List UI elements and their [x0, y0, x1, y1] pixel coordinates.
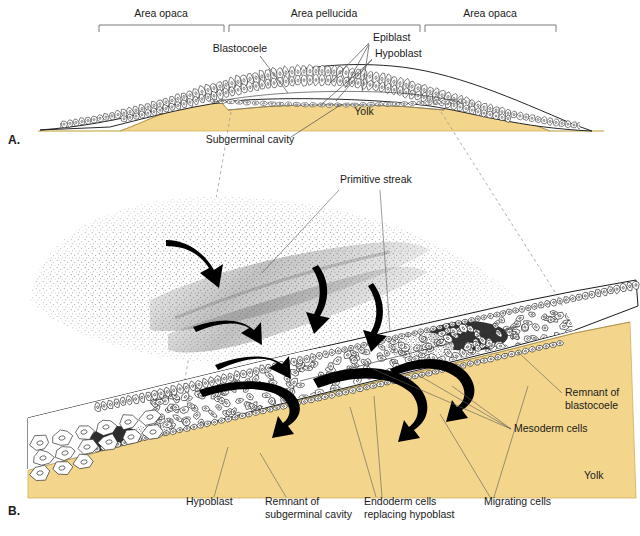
- cell: [417, 101, 424, 105]
- label-remnant-blastocoele-l1: Remnant of: [565, 386, 619, 398]
- cell: [90, 115, 98, 123]
- label-area-opaca-left: Area opaca: [134, 7, 188, 19]
- label-remnant-subgerminal-l1: Remnant of: [265, 495, 319, 507]
- cell: [37, 124, 43, 130]
- cell-nucleus: [57, 124, 59, 126]
- cell-nucleus: [597, 323, 599, 325]
- cell: [268, 102, 275, 106]
- cell: [227, 100, 234, 104]
- panel-a: Area opaca Area pellucida Area opaca: [8, 7, 604, 147]
- cell: [392, 102, 400, 106]
- label-remnant-blastocoele-l2: blastocoele: [565, 399, 618, 411]
- cell: [401, 102, 408, 106]
- bracket-area-opaca-left: [99, 25, 224, 32]
- panel-id-a: A.: [8, 133, 20, 147]
- area-brackets: [99, 25, 556, 32]
- cell-nucleus: [51, 125, 53, 127]
- label-hypoblast: Hypoblast: [375, 47, 422, 59]
- cell-nucleus: [591, 126, 593, 128]
- label-remnant-subgerminal-l2: subgerminal cavity: [265, 508, 353, 520]
- cell: [49, 122, 56, 130]
- cell-nucleus: [45, 125, 47, 127]
- cell-nucleus: [39, 126, 41, 128]
- cell: [326, 103, 333, 107]
- chick-gastrulation-figure: Area opaca Area pellucida Area opaca: [0, 0, 640, 536]
- cell-nucleus: [615, 316, 618, 319]
- label-migrating-cells: Migrating cells: [484, 495, 551, 507]
- cell: [276, 102, 284, 106]
- label-yolk-b: Yolk: [584, 469, 604, 481]
- cell-nucleus: [585, 125, 587, 127]
- label-epiblast: Epiblast: [373, 31, 410, 43]
- panel-id-b: B.: [8, 504, 20, 518]
- cell-nucleus: [604, 323, 607, 326]
- cell: [260, 101, 268, 106]
- bracket-area-opaca-right: [425, 25, 556, 32]
- label-area-pellucida: Area pellucida: [291, 7, 358, 19]
- cell: [78, 117, 85, 125]
- label-yolk-a: Yolk: [354, 105, 374, 117]
- panel-b: Primitive streak Remnant of blastocoele …: [8, 173, 640, 520]
- cell: [609, 316, 617, 323]
- cell: [244, 101, 251, 105]
- label-blastocoele: Blastocoele: [213, 42, 267, 54]
- label-area-opaca-right: Area opaca: [463, 7, 517, 19]
- cell: [434, 100, 442, 104]
- label-primitive-streak: Primitive streak: [340, 173, 413, 185]
- cell-nucleus: [612, 319, 614, 321]
- cell: [252, 101, 258, 105]
- cell: [296, 383, 304, 388]
- label-endoderm-cells-l2: replacing hypoblast: [364, 508, 455, 520]
- label-hypoblast-b: Hypoblast: [186, 495, 233, 507]
- label-subgerminal-cavity: Subgerminal cavity: [206, 133, 295, 145]
- label-endoderm-cells-l1: Endoderm cells: [364, 495, 436, 507]
- cell-nucleus: [624, 319, 627, 321]
- cell-nucleus: [620, 315, 623, 318]
- label-mesoderm-cells: Mesoderm cells: [514, 422, 588, 434]
- cell: [96, 114, 104, 122]
- figure-canvas: Area opaca Area pellucida Area opaca: [0, 0, 640, 536]
